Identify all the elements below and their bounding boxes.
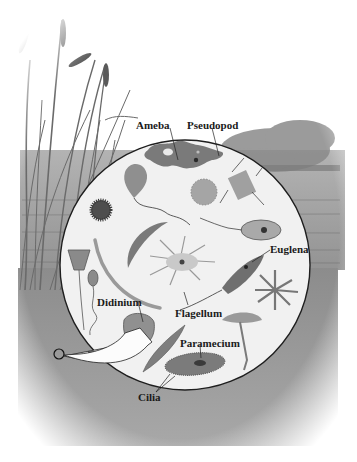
label-euglena: Euglena: [270, 244, 309, 255]
pond-illustration: [0, 0, 357, 462]
label-didinium: Didinium: [97, 297, 142, 308]
label-ameba: Ameba: [136, 120, 170, 131]
label-pseudopod: Pseudopod: [187, 120, 238, 131]
label-paramecium: Paramecium: [180, 338, 240, 349]
label-cilia: Cilia: [138, 392, 161, 403]
pollen-organism: [191, 179, 217, 205]
radiolarian-organism: [91, 200, 111, 220]
label-flagellum: Flagellum: [175, 308, 222, 319]
